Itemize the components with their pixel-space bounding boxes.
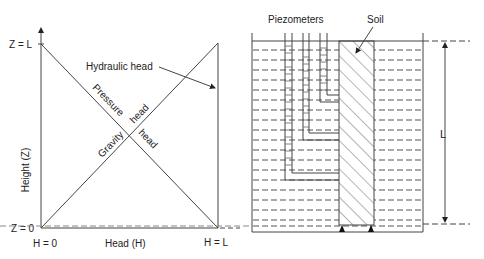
pressure-label: Pressure — [91, 82, 127, 119]
y-axis-arrow-icon — [38, 27, 44, 33]
piezometers-label: Piezometers — [268, 14, 324, 25]
x-right-label: H = L — [204, 237, 229, 248]
left-labels: Z = L Z = 0 H = 0 Head (H) H = L Height … — [9, 39, 229, 249]
piezometer-3 — [320, 33, 339, 102]
piezometer-1 — [285, 33, 339, 180]
hydraulic-head-label: Hydraulic head — [86, 61, 153, 72]
piezometer-2 — [303, 33, 339, 140]
x-axis-label: Head (H) — [105, 238, 146, 249]
piezometers — [285, 33, 339, 180]
water-fill — [253, 50, 423, 226]
length-arrow-down-icon — [442, 217, 448, 223]
hydraulic-head-arrow — [159, 67, 215, 88]
diagram-canvas: Z = L Z = 0 H = 0 Head (H) H = L Height … — [0, 0, 484, 259]
permeameter-diagram — [0, 27, 470, 232]
x-left-label: H = 0 — [33, 238, 58, 249]
pressure-head-label: head — [128, 102, 151, 126]
length-label: L — [440, 128, 446, 140]
y-bottom-label: Z = 0 — [11, 223, 35, 234]
soil-label: Soil — [367, 14, 384, 25]
y-axis-label: Height (Z) — [20, 148, 31, 192]
length-arrow-up-icon — [442, 42, 448, 48]
y-top-label: Z = L — [9, 39, 33, 50]
head-profile-chart — [38, 27, 240, 228]
length-dimension — [0, 41, 470, 226]
